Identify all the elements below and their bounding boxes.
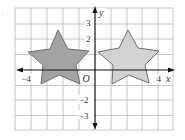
- y-axis-label: y: [98, 7, 104, 18]
- x-axis-label: x: [165, 73, 171, 84]
- y-tick-label-3: 3: [86, 18, 91, 28]
- coordinate-grid-figure: y x O −4 4 3 2 −2 −3: [0, 0, 185, 140]
- x-tick-label-4: 4: [157, 74, 162, 84]
- y-tick-label-2: 2: [86, 34, 91, 44]
- x-tick-label-neg4: −4: [22, 74, 32, 84]
- speck: [2, 14, 3, 15]
- origin-label: O: [83, 73, 90, 84]
- y-tick-label-neg3: −3: [79, 111, 89, 121]
- y-tick-label-neg2: −2: [79, 95, 89, 105]
